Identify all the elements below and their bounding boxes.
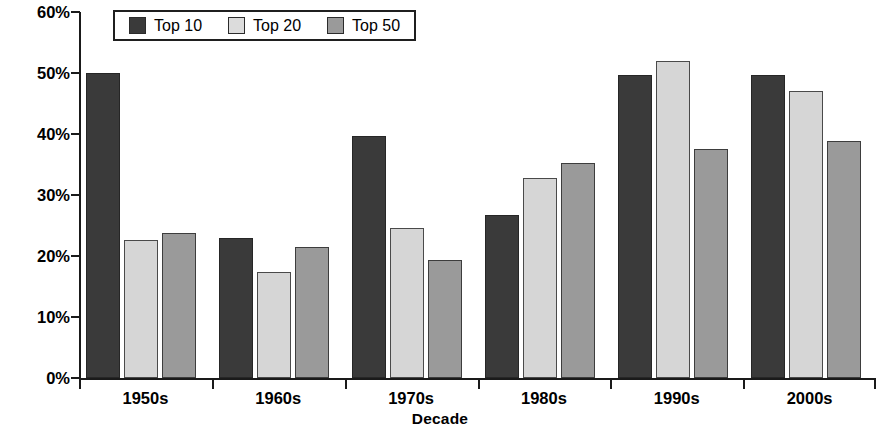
y-axis-tick-label: 20% bbox=[8, 247, 70, 265]
legend-swatch-top50 bbox=[327, 17, 344, 34]
y-axis-tick-mark bbox=[71, 11, 80, 13]
y-axis-tick-mark bbox=[71, 72, 80, 74]
y-axis-tick-label: 60% bbox=[8, 3, 70, 21]
x-axis-tick-mark bbox=[79, 380, 81, 389]
x-axis-tick-label: 1990s bbox=[617, 388, 737, 408]
x-axis-tick-label: 1980s bbox=[484, 388, 604, 408]
bar bbox=[656, 61, 690, 378]
y-axis-tick-label: 40% bbox=[8, 125, 70, 143]
x-axis-tick-mark bbox=[610, 380, 612, 389]
x-axis-title: Decade bbox=[0, 410, 880, 428]
bar bbox=[485, 215, 519, 378]
y-axis-tick-mark bbox=[71, 377, 80, 379]
bar bbox=[257, 272, 291, 378]
bar bbox=[162, 233, 196, 378]
x-axis-tick-label: 2000s bbox=[750, 388, 870, 408]
bar bbox=[390, 228, 424, 378]
x-axis-tick-label: 1970s bbox=[351, 388, 471, 408]
bars-layer bbox=[79, 12, 876, 378]
legend-swatch-top10 bbox=[129, 17, 146, 34]
bar bbox=[428, 260, 462, 378]
y-axis-tick-labels: 0%10%20%30%40%50%60% bbox=[4, 0, 70, 435]
bar bbox=[219, 238, 253, 378]
bar bbox=[523, 178, 557, 378]
legend-entry: Top 10 bbox=[129, 17, 202, 35]
bar bbox=[352, 136, 386, 378]
legend-entry: Top 50 bbox=[327, 17, 400, 35]
y-axis-tick-mark bbox=[71, 133, 80, 135]
x-axis-tick-mark bbox=[743, 380, 745, 389]
x-axis-tick-label: 1960s bbox=[218, 388, 338, 408]
bar-chart: Proportion of authors who are women 0%10… bbox=[0, 0, 880, 435]
x-axis-tick-mark bbox=[345, 380, 347, 389]
y-axis-tick-mark bbox=[71, 255, 80, 257]
bar bbox=[827, 141, 861, 378]
y-axis-tick-label: 10% bbox=[8, 308, 70, 326]
y-axis-tick-mark bbox=[71, 316, 80, 318]
legend: Top 10Top 20Top 50 bbox=[113, 10, 416, 41]
bar bbox=[751, 75, 785, 378]
bar bbox=[618, 75, 652, 378]
legend-swatch-top20 bbox=[228, 17, 245, 34]
legend-label: Top 50 bbox=[352, 17, 400, 35]
legend-label: Top 10 bbox=[154, 17, 202, 35]
bar bbox=[124, 240, 158, 378]
bar bbox=[561, 163, 595, 378]
bar bbox=[86, 73, 120, 378]
bar bbox=[694, 149, 728, 378]
plot-area bbox=[79, 12, 876, 378]
y-axis-tick-mark bbox=[71, 194, 80, 196]
bar bbox=[789, 91, 823, 378]
bar bbox=[295, 247, 329, 378]
x-axis-tick-mark bbox=[478, 380, 480, 389]
y-axis-tick-label: 30% bbox=[8, 186, 70, 204]
y-axis-tick-label: 50% bbox=[8, 64, 70, 82]
legend-entry: Top 20 bbox=[228, 17, 301, 35]
legend-label: Top 20 bbox=[253, 17, 301, 35]
x-axis-tick-label: 1950s bbox=[85, 388, 205, 408]
x-axis-tick-mark bbox=[874, 380, 876, 389]
y-axis-tick-label: 0% bbox=[8, 369, 70, 387]
x-axis-tick-mark bbox=[212, 380, 214, 389]
